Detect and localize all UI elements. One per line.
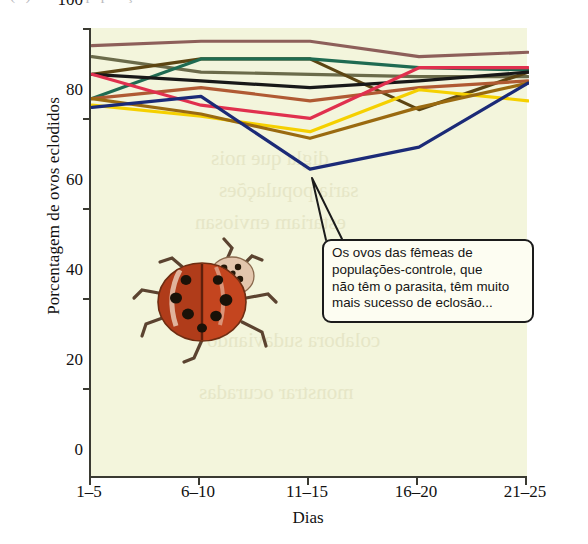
callout-annotation: Os ovos das fêmeas de populações-control… <box>322 239 534 323</box>
x-tick-label-6-10: 6–10 <box>153 482 243 502</box>
callout-text-line-3: não têm o parasita, têm muito <box>332 279 528 296</box>
x-tick-label-11-15: 11–15 <box>262 482 352 502</box>
y-tick-label-100: 100 <box>39 0 83 10</box>
chart-page: (A) Machos população Fêmeas Porcentagem … <box>0 0 588 544</box>
y-tick-label-60: 60 <box>39 170 83 190</box>
x-tick-label-21-25: 21–25 <box>480 482 570 502</box>
y-tick-label-80: 80 <box>39 80 83 100</box>
ladybug-beetle-photo <box>128 236 294 364</box>
y-tick-label-0: 0 <box>39 440 83 460</box>
x-axis-title: Dias <box>89 508 527 528</box>
series-line-serie-marrom-claro <box>92 41 528 56</box>
callout-text-line-2: populações-controle, que <box>332 262 528 279</box>
x-tick-label-16-20: 16–20 <box>371 482 461 502</box>
callout-text-line-4: mais sucesso de eclosão... <box>332 295 528 312</box>
callout-text: Os ovos das fêmeas de populações-control… <box>332 245 528 312</box>
y-tick-label-40: 40 <box>39 260 83 280</box>
y-axis-tick-labels: 100 80 60 40 20 0 <box>35 0 83 478</box>
y-tick-label-20: 20 <box>39 350 83 370</box>
cropped-header-strip: (A) Machos população Fêmeas <box>0 0 588 9</box>
callout-text-line-1: Os ovos das fêmeas de <box>332 245 528 262</box>
x-axis-tick-labels: 1–5 6–10 11–15 16–20 21–25 <box>89 482 527 508</box>
x-tick-label-1-5: 1–5 <box>44 482 134 502</box>
